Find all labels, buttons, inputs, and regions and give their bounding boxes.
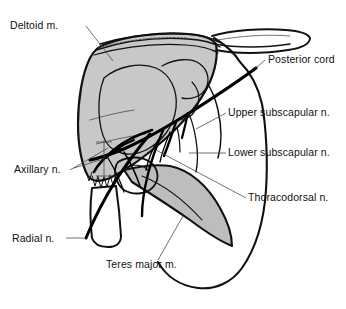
leader-posterior-cord bbox=[255, 60, 265, 69]
label-radial: Radial n. bbox=[12, 232, 54, 244]
label-posterior-cord: Posterior cord bbox=[268, 53, 335, 65]
leader-upper-subscapular bbox=[196, 113, 226, 129]
anatomy-figure: Deltoid m. Posterior cord Upper subscapu… bbox=[0, 0, 346, 309]
label-thoracodorsal: Thoracodorsal n. bbox=[248, 191, 328, 203]
teres-major-shape bbox=[124, 165, 232, 246]
label-upper-subscapular: Upper subscapular n. bbox=[228, 106, 330, 118]
label-axillary: Axillary n. bbox=[14, 163, 61, 175]
label-lower-subscapular: Lower subscapular n. bbox=[228, 146, 330, 158]
upper-arm-contour bbox=[212, 29, 310, 53]
label-teres-major: Teres major m. bbox=[106, 258, 177, 270]
anatomy-illustration: Deltoid m. Posterior cord Upper subscapu… bbox=[0, 0, 346, 309]
leader-teres-major bbox=[158, 216, 183, 260]
label-deltoid: Deltoid m. bbox=[10, 19, 58, 31]
